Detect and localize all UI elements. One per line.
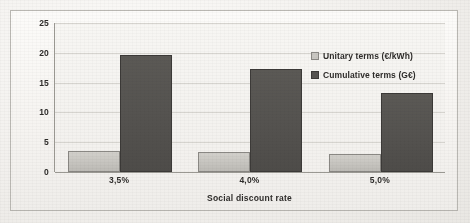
- gridline: [55, 172, 445, 173]
- y-tick-label: 15: [27, 78, 49, 88]
- plot-area: [54, 23, 445, 172]
- y-tick-label: 0: [27, 167, 49, 177]
- x-axis-title: Social discount rate: [54, 193, 445, 203]
- legend-label: Unitary terms (€/kWh): [323, 51, 413, 61]
- bar-group: [185, 23, 315, 172]
- x-tick-label: 5,0%: [315, 175, 445, 185]
- legend-item[interactable]: Cumulative terms (G€): [311, 70, 461, 80]
- scanned-page: 0510152025 €/kWh G€ 3,5%4,0%5,0% Social …: [0, 0, 470, 223]
- y-tick-label: 10: [27, 107, 49, 117]
- x-tick-label: 3,5%: [54, 175, 184, 185]
- chart-legend: Unitary terms (€/kWh)Cumulative terms (G…: [311, 51, 461, 89]
- legend-item[interactable]: Unitary terms (€/kWh): [311, 51, 461, 61]
- y-tick-label: 5: [27, 137, 49, 147]
- y-tick-label: 20: [27, 48, 49, 58]
- legend-label: Cumulative terms (G€): [323, 70, 416, 80]
- chart-frame: 0510152025 €/kWh G€ 3,5%4,0%5,0% Social …: [10, 10, 458, 211]
- x-tick-label: 4,0%: [184, 175, 314, 185]
- bar-cumulative[interactable]: [120, 55, 172, 172]
- bar-unitary[interactable]: [198, 152, 250, 172]
- bar-cumulative[interactable]: [381, 93, 433, 172]
- y-tick-label: 25: [27, 18, 49, 28]
- bar-group: [316, 23, 446, 172]
- x-axis-tick-labels: 3,5%4,0%5,0%: [54, 175, 445, 191]
- legend-swatch-icon: [311, 71, 319, 79]
- bar-unitary[interactable]: [329, 154, 381, 172]
- bar-unitary[interactable]: [68, 151, 120, 172]
- bar-series-container: [55, 23, 445, 172]
- bar-group: [55, 23, 185, 172]
- bar-cumulative[interactable]: [250, 69, 302, 172]
- legend-swatch-icon: [311, 52, 319, 60]
- y-axis-tick-labels: 0510152025: [23, 23, 49, 172]
